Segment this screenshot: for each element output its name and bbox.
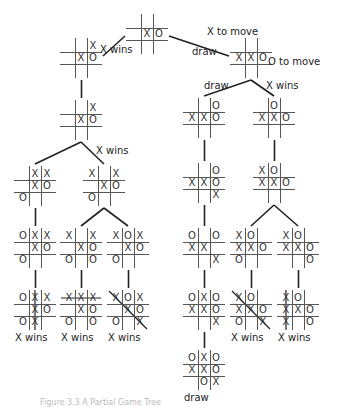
- board-cell: [198, 165, 210, 177]
- board-cell: [186, 254, 198, 266]
- board-cell: O: [268, 100, 280, 112]
- board-cell: [75, 64, 87, 76]
- board-cell: [17, 180, 29, 192]
- board-cell: O: [134, 304, 146, 316]
- board-cell: O: [280, 112, 292, 124]
- board-cell: X: [256, 112, 268, 124]
- board-cell: [233, 40, 245, 52]
- figure-caption: Figure 3.3 A Partial Game Tree: [40, 398, 161, 407]
- board-cell: X: [198, 364, 210, 376]
- board-cell: X: [245, 304, 257, 316]
- board-cell: [186, 124, 198, 136]
- board-cell: [129, 28, 141, 40]
- board-cell: O: [292, 292, 304, 304]
- board-R3a: OXXOX: [186, 165, 222, 201]
- board-cell: X: [87, 102, 99, 114]
- board-cell: [256, 124, 268, 136]
- x-to-move-annotation: X to move: [207, 26, 258, 38]
- board-cell: O: [17, 230, 29, 242]
- board-cell: [110, 304, 122, 316]
- board-cell: X: [29, 168, 41, 180]
- board-cell: X: [280, 292, 292, 304]
- board-cell: X: [256, 165, 268, 177]
- board-cell: [257, 40, 269, 52]
- board-cell: O: [87, 316, 99, 328]
- board-R4a: OOXXX: [186, 230, 222, 266]
- board-cell: [186, 376, 198, 388]
- board-cell: X: [122, 304, 134, 316]
- board-R4b: XOXXOO: [233, 230, 269, 266]
- board-cell: [110, 192, 122, 204]
- board-cell: O: [110, 180, 122, 192]
- board-cell: X: [110, 230, 122, 242]
- board-cell: [122, 254, 134, 266]
- board-cell: [17, 168, 29, 180]
- board-cell: [257, 254, 269, 266]
- board-cell: O: [245, 230, 257, 242]
- board-cell: O: [87, 304, 99, 316]
- board-cell: [245, 40, 257, 52]
- board-cell: O: [210, 364, 222, 376]
- board-cell: [17, 242, 29, 254]
- edge-label: draw: [204, 80, 229, 92]
- board-cell: [17, 304, 29, 316]
- board-cell: [198, 254, 210, 266]
- board-cell: [87, 126, 99, 138]
- board-cell: X: [63, 230, 75, 242]
- board-cell: X: [233, 52, 245, 64]
- board-cell: [256, 100, 268, 112]
- board-R2a: OXXO: [186, 100, 222, 136]
- board-cell: [75, 126, 87, 138]
- board-cell: O: [17, 192, 29, 204]
- board-cell: [198, 230, 210, 242]
- tree-edge: [104, 208, 128, 226]
- board-cell: X: [245, 52, 257, 64]
- board-cell: [245, 316, 257, 328]
- board-cell: [198, 100, 210, 112]
- board-cell: [186, 189, 198, 201]
- board-cell: X: [268, 177, 280, 189]
- board-cell: O: [110, 316, 122, 328]
- board-cell: X: [198, 242, 210, 254]
- board-cell: [75, 254, 87, 266]
- board-cell: O: [122, 230, 134, 242]
- board-cell: [233, 64, 245, 76]
- board-cell: X: [134, 230, 146, 242]
- tree-edge: [251, 205, 274, 226]
- board-cell: O: [245, 292, 257, 304]
- board-cell: [280, 124, 292, 136]
- board-cell: [304, 292, 316, 304]
- board-cell: X: [75, 242, 87, 254]
- board-L4b: XXXOOO: [63, 230, 99, 266]
- board-cell: X: [256, 177, 268, 189]
- result-label: draw: [184, 392, 209, 404]
- tree-edge: [274, 205, 298, 226]
- board-cell: [63, 64, 75, 76]
- board-cell: X: [41, 292, 53, 304]
- board-cell: [257, 230, 269, 242]
- board-cell: O: [233, 316, 245, 328]
- board-R5a: OXOXXOX: [186, 292, 222, 328]
- board-cell: [280, 100, 292, 112]
- board-cell: [63, 114, 75, 126]
- board-cell: X: [233, 242, 245, 254]
- board-cell: O: [304, 254, 316, 266]
- board-cell: [63, 242, 75, 254]
- board-cell: O: [63, 254, 75, 266]
- board-cell: [198, 316, 210, 328]
- board-cell: [186, 165, 198, 177]
- board-cell: [29, 254, 41, 266]
- board-cell: [134, 254, 146, 266]
- board-cell: X: [41, 168, 53, 180]
- board-cell: [63, 126, 75, 138]
- board-cell: O: [210, 165, 222, 177]
- board-cell: [29, 192, 41, 204]
- board-cell: [304, 230, 316, 242]
- board-cell: X: [86, 168, 98, 180]
- board-cell: [198, 189, 210, 201]
- o-to-move-annotation: O to move: [268, 56, 320, 68]
- board-cell: X: [110, 292, 122, 304]
- board-cell: X: [198, 292, 210, 304]
- board-cell: X: [75, 292, 87, 304]
- board-cell: X: [186, 112, 198, 124]
